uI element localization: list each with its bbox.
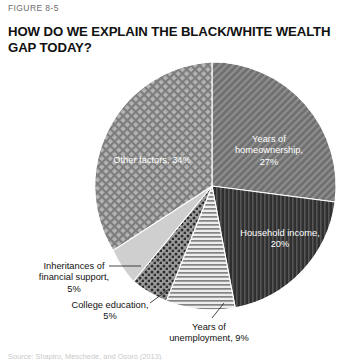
pie-label-inheritances-of-financial-support: Inheritances of financial support, 5% [22, 261, 126, 295]
pie-label-years-of-unemployment: Years of unemployment, 9% [148, 322, 270, 345]
pie-label-other-factors: Other factors, 34% [100, 155, 204, 166]
pie-slices [95, 62, 336, 310]
pie-chart: Years of homeownership, 27% Household in… [0, 0, 354, 360]
pie-label-college-education: College education, 5% [55, 300, 165, 323]
pie-label-household-income: Household income, 20% [232, 228, 328, 251]
pie-chart-svg [0, 0, 354, 360]
pie-slice-years-of-homeownership[interactable] [212, 62, 336, 202]
source-note: Source: Shapiro, Meschede, and Osoro (20… [8, 352, 338, 360]
pie-label-years-of-homeownership: Years of homeownership, 27% [222, 134, 316, 168]
